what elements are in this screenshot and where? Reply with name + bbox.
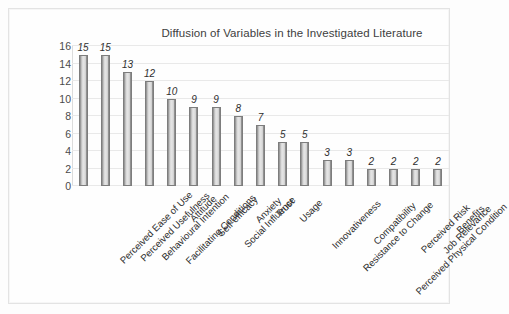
bar-group[interactable]: 13 xyxy=(116,46,138,186)
bar-value-label: 15 xyxy=(92,42,118,53)
bar[interactable] xyxy=(367,169,376,187)
bar-group[interactable]: 9 xyxy=(183,46,205,186)
bar-group[interactable]: 8 xyxy=(227,46,249,186)
bar[interactable] xyxy=(101,55,110,186)
bar-group[interactable]: 3 xyxy=(316,46,338,186)
bar-group[interactable]: 10 xyxy=(161,46,183,186)
bar[interactable] xyxy=(212,107,221,186)
bar-group[interactable]: 3 xyxy=(338,46,360,186)
bar-value-label: 5 xyxy=(292,129,318,140)
bar[interactable] xyxy=(345,160,354,186)
chart-title: Diffusion of Variables in the Investigat… xyxy=(127,27,457,39)
x-axis-category-label: Usage xyxy=(297,197,324,224)
bar-group[interactable]: 12 xyxy=(139,46,161,186)
x-axis-category-labels: Perceived Ease of UsePerceived Usefulnes… xyxy=(72,187,462,314)
bar-group[interactable]: 5 xyxy=(272,46,294,186)
bar-group[interactable]: 15 xyxy=(72,46,94,186)
bar[interactable] xyxy=(256,125,265,186)
bar[interactable] xyxy=(411,169,420,187)
bar-group[interactable]: 7 xyxy=(249,46,271,186)
bar-value-label: 12 xyxy=(137,68,163,79)
bar-group[interactable]: 2 xyxy=(405,46,427,186)
y-axis-tick-label: 0 xyxy=(65,181,71,192)
bar[interactable] xyxy=(278,142,287,186)
bar-value-label: 2 xyxy=(425,156,451,167)
bar[interactable] xyxy=(433,169,442,187)
bar[interactable] xyxy=(189,107,198,186)
bar-group[interactable]: 9 xyxy=(205,46,227,186)
bar[interactable] xyxy=(300,142,309,186)
x-axis-category-label: Perceived Ease of Use xyxy=(118,189,195,266)
y-axis-tick-labels: 1614121086420 xyxy=(45,39,71,193)
bar[interactable] xyxy=(167,99,176,187)
figure-frame: Diffusion of Variables in the Investigat… xyxy=(8,8,450,304)
y-axis-tick-label: 14 xyxy=(59,59,71,70)
bar[interactable] xyxy=(323,160,332,186)
bar-group[interactable]: 2 xyxy=(382,46,404,186)
plot-area: 1515131210998755332222 xyxy=(72,46,449,186)
y-axis-tick-label: 6 xyxy=(65,129,71,140)
bar-value-label: 7 xyxy=(248,112,274,123)
bar-group[interactable]: 15 xyxy=(94,46,116,186)
bar[interactable] xyxy=(234,116,243,186)
bar-group[interactable]: 5 xyxy=(294,46,316,186)
y-axis-tick-label: 8 xyxy=(65,111,71,122)
y-axis-tick-label: 12 xyxy=(59,76,71,87)
y-axis-tick-label: 4 xyxy=(65,146,71,157)
bar-group[interactable]: 2 xyxy=(360,46,382,186)
bar[interactable] xyxy=(79,55,88,186)
bar[interactable] xyxy=(389,169,398,187)
bar[interactable] xyxy=(145,81,154,186)
bar[interactable] xyxy=(123,72,132,186)
y-axis-tick-label: 10 xyxy=(59,94,71,105)
y-axis-tick-label: 2 xyxy=(65,164,71,175)
bar-group[interactable]: 2 xyxy=(427,46,449,186)
